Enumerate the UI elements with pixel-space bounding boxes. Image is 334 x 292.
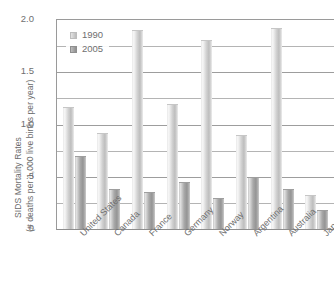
y-axis-tick-labels: 0.51.01.52.0	[8, 0, 34, 292]
legend-item-2005: 2005	[70, 42, 103, 56]
x-tick-label: Argentina	[251, 231, 258, 238]
x-tick-label: Canada	[112, 231, 119, 238]
bar-1990[interactable]	[132, 30, 143, 229]
y-tick-label: .5	[8, 171, 34, 181]
bar-1990[interactable]	[201, 40, 212, 229]
legend-item-1990: 1990	[70, 28, 103, 42]
bar-group	[299, 20, 334, 229]
y-tick-label: 1.5	[8, 66, 34, 76]
legend-label-2005: 2005	[82, 44, 103, 54]
y-tick-label: 0	[8, 223, 34, 233]
legend-swatch-1990	[70, 32, 77, 39]
y-tick-label: 1.0	[8, 119, 34, 129]
bar-group	[230, 20, 265, 229]
plot-area: 1990 2005	[56, 19, 334, 230]
bar-1990[interactable]	[63, 107, 74, 229]
legend: 1990 2005	[66, 26, 109, 59]
sids-mortality-bar-chart: SIDS Mortality Rates (# deaths per 1,000…	[0, 0, 334, 292]
bar-1990[interactable]	[167, 104, 178, 229]
y-tick-label: 2.0	[8, 14, 34, 24]
x-tick-label: United States	[78, 231, 85, 238]
legend-label-1990: 1990	[82, 30, 103, 40]
x-tick-label: Germany	[182, 231, 189, 238]
x-tick-label: Norway	[217, 231, 224, 238]
bar-group	[161, 20, 196, 229]
bar-2005[interactable]	[248, 177, 259, 229]
x-tick-label: Australia	[286, 231, 293, 238]
bar-group	[265, 20, 300, 229]
x-tick-label: Japan	[321, 231, 328, 238]
legend-swatch-2005	[70, 46, 77, 53]
bar-group	[126, 20, 161, 229]
bar-group	[196, 20, 231, 229]
bar-1990[interactable]	[271, 28, 282, 229]
x-axis-tick-labels: United StatesCanadaFranceGermanyNorwayAr…	[56, 231, 334, 292]
x-tick-label: France	[147, 231, 154, 238]
bar-2005[interactable]	[179, 182, 190, 229]
bar-2005[interactable]	[75, 156, 86, 229]
